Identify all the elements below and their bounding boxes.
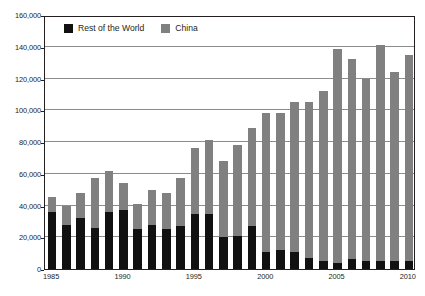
bar-1997 bbox=[219, 161, 228, 269]
bar-segment-rest-of-the-world bbox=[91, 228, 100, 269]
y-axis: 020,00040,00060,00080,000100,000120,0001… bbox=[0, 16, 41, 270]
bar-segment-rest-of-the-world bbox=[290, 252, 299, 269]
bar-segment-rest-of-the-world bbox=[133, 229, 142, 269]
bar-segment-china bbox=[148, 190, 157, 225]
bar-segment-rest-of-the-world bbox=[405, 261, 414, 269]
bar-1996 bbox=[205, 140, 214, 269]
bar-segment-china bbox=[305, 102, 314, 258]
bar-segment-rest-of-the-world bbox=[105, 212, 114, 269]
bar-2002 bbox=[290, 102, 299, 269]
bar-2000 bbox=[262, 113, 271, 269]
bar-segment-rest-of-the-world bbox=[205, 214, 214, 269]
plot-area bbox=[44, 16, 415, 270]
bar-segment-china bbox=[290, 102, 299, 252]
bar-segment-china bbox=[119, 183, 128, 210]
y-tick-label: 80,000 bbox=[0, 139, 41, 146]
bar-segment-china bbox=[191, 148, 200, 214]
bar-segment-rest-of-the-world bbox=[76, 218, 85, 269]
bar-segment-china bbox=[76, 193, 85, 218]
y-tick-label: 120,000 bbox=[0, 76, 41, 83]
x-tick-label: 1985 bbox=[43, 273, 59, 280]
bar-segment-china bbox=[262, 113, 271, 252]
bar-segment-rest-of-the-world bbox=[305, 258, 314, 269]
bar-segment-china bbox=[205, 140, 214, 215]
x-tick-label: 2005 bbox=[328, 273, 344, 280]
bar-2010 bbox=[405, 55, 414, 269]
bar-segment-rest-of-the-world bbox=[62, 225, 71, 269]
bar-2005 bbox=[333, 49, 342, 269]
x-tick-label: 2000 bbox=[257, 273, 273, 280]
bar-segment-rest-of-the-world bbox=[348, 259, 357, 269]
bar-segment-rest-of-the-world bbox=[319, 261, 328, 269]
bar-1990 bbox=[119, 183, 128, 269]
bar-segment-rest-of-the-world bbox=[219, 237, 228, 269]
legend-swatch-rest-of-the-world bbox=[64, 24, 73, 33]
y-tick-label: 100,000 bbox=[0, 108, 41, 115]
bar-segment-rest-of-the-world bbox=[333, 263, 342, 269]
y-tick-label: 0 bbox=[0, 266, 41, 273]
bar-segment-rest-of-the-world bbox=[262, 252, 271, 269]
y-tick-label: 160,000 bbox=[0, 12, 41, 19]
bar-1986 bbox=[62, 206, 71, 270]
y-tick-mark bbox=[41, 270, 44, 271]
bar-2008 bbox=[376, 45, 385, 269]
y-tick-label: 20,000 bbox=[0, 235, 41, 242]
bar-2007 bbox=[362, 79, 371, 270]
bar-2004 bbox=[319, 91, 328, 269]
bar-segment-china bbox=[219, 161, 228, 237]
bar-1987 bbox=[76, 193, 85, 269]
legend-item-rest-of-the-world: Rest of the World bbox=[64, 24, 144, 33]
bars-layer bbox=[45, 17, 414, 269]
bar-1991 bbox=[133, 204, 142, 269]
legend-label-china: China bbox=[175, 24, 197, 33]
bar-2006 bbox=[348, 59, 357, 269]
legend-item-china: China bbox=[161, 24, 197, 33]
chart-legend: Rest of the World China bbox=[64, 24, 198, 33]
bar-1993 bbox=[162, 193, 171, 269]
bar-segment-china bbox=[91, 178, 100, 228]
bar-segment-china bbox=[362, 79, 371, 262]
bar-segment-china bbox=[162, 193, 171, 230]
bar-segment-rest-of-the-world bbox=[48, 212, 57, 269]
bar-segment-rest-of-the-world bbox=[390, 261, 399, 269]
y-tick-label: 140,000 bbox=[0, 44, 41, 51]
bar-segment-china bbox=[62, 206, 71, 225]
bar-segment-china bbox=[376, 45, 385, 261]
bar-1985 bbox=[48, 197, 57, 269]
bar-1998 bbox=[233, 145, 242, 269]
bar-segment-china bbox=[390, 72, 399, 261]
bar-segment-china bbox=[233, 145, 242, 235]
bar-segment-china bbox=[333, 49, 342, 263]
bar-2003 bbox=[305, 102, 314, 269]
bar-segment-china bbox=[133, 204, 142, 229]
bar-segment-rest-of-the-world bbox=[233, 236, 242, 269]
bar-segment-china bbox=[248, 128, 257, 226]
bar-segment-china bbox=[319, 91, 328, 261]
x-tick-label: 2010 bbox=[400, 273, 416, 280]
bar-1994 bbox=[176, 178, 185, 269]
x-tick-label: 1990 bbox=[114, 273, 130, 280]
bar-segment-rest-of-the-world bbox=[362, 261, 371, 269]
legend-swatch-china bbox=[161, 24, 170, 33]
bar-segment-china bbox=[276, 113, 285, 250]
bar-segment-rest-of-the-world bbox=[376, 261, 385, 269]
x-tick-label: 1995 bbox=[186, 273, 202, 280]
bar-1999 bbox=[248, 128, 257, 269]
bar-segment-rest-of-the-world bbox=[176, 226, 185, 269]
bar-segment-rest-of-the-world bbox=[119, 210, 128, 269]
bar-segment-china bbox=[348, 59, 357, 259]
bar-1989 bbox=[105, 171, 114, 269]
y-tick-label: 60,000 bbox=[0, 171, 41, 178]
x-axis: 198519901995200020052010 bbox=[44, 273, 415, 289]
bar-segment-rest-of-the-world bbox=[191, 214, 200, 269]
bar-segment-rest-of-the-world bbox=[148, 225, 157, 269]
bar-1988 bbox=[91, 178, 100, 269]
bar-1992 bbox=[148, 190, 157, 269]
bar-segment-china bbox=[405, 55, 414, 261]
bar-segment-rest-of-the-world bbox=[162, 229, 171, 269]
y-tick-label: 40,000 bbox=[0, 203, 41, 210]
bar-segment-china bbox=[176, 178, 185, 226]
bar-segment-rest-of-the-world bbox=[276, 250, 285, 269]
bar-segment-rest-of-the-world bbox=[248, 226, 257, 269]
bar-2001 bbox=[276, 113, 285, 269]
